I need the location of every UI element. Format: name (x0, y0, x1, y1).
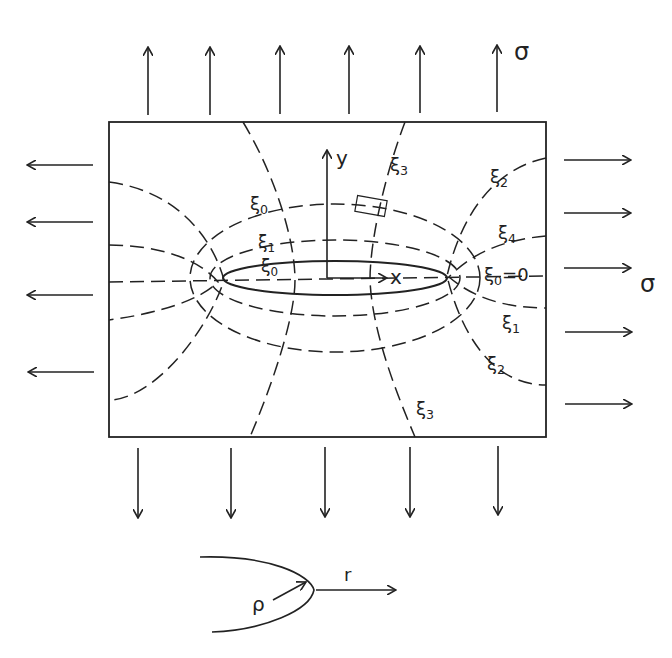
xi1-inner-label: ξ1 (258, 234, 275, 254)
left-load-arrows (27, 165, 94, 372)
xi2-top-right-label: ξ2 (490, 168, 508, 189)
xi4-right-label: ξ4 (498, 224, 516, 245)
tip-detail (200, 557, 396, 632)
bottom-load-arrows (138, 446, 498, 518)
rho-label: ρ (252, 594, 265, 614)
xi3-top-label: ξ3 (390, 156, 408, 177)
xi0-equals-zero-label: ξ0=0 (484, 266, 529, 287)
sigma-top-label: σ (514, 40, 529, 64)
right-load-arrows (564, 160, 632, 404)
sigma-right-label: σ (640, 272, 655, 296)
y-axis-label: y (336, 148, 348, 168)
diagram-canvas (0, 0, 672, 658)
xi3-bottom-label: ξ3 (416, 400, 434, 421)
r-label: r (344, 566, 351, 584)
x-axis-label: x (390, 267, 402, 287)
xi0-upper-left-label: ξ0 (250, 195, 268, 216)
top-load-arrows (148, 45, 497, 115)
xi0-inner-label: ξ0 (261, 258, 278, 278)
stress-element-box (355, 196, 387, 217)
rho-arrow (273, 582, 306, 600)
xi1-right-label: ξ1 (502, 314, 520, 335)
xi2-bottom-right-label: ξ2 (487, 355, 505, 376)
